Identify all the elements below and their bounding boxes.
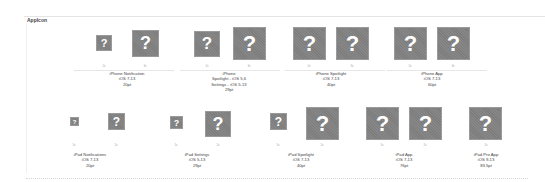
group-label-iphone-spotlight: iPhone Spotlight iOS 7-13 40pt — [296, 71, 366, 87]
icon-slot-iphone-app-2x[interactable]: ? — [394, 27, 427, 60]
scale-label: 1x — [268, 143, 288, 147]
scale-label: 2x — [312, 143, 332, 147]
section-title: AppIcon — [27, 17, 47, 23]
group-label-ipad-pro-app: iPad Pro App iOS 9-13 83.5pt — [451, 152, 521, 168]
scale-label: 2x — [197, 64, 217, 68]
icon-slot-ipad-settings-2x[interactable]: ? — [205, 111, 231, 137]
icon-slot-iphone-notification-2x[interactable]: ? — [96, 35, 112, 51]
section-bottom-divider — [26, 178, 528, 180]
section-border — [26, 23, 27, 173]
group-size: 29pt — [162, 163, 232, 168]
scale-label: 2x — [94, 64, 114, 68]
scale-label: 2x — [106, 143, 126, 147]
icon-slot-iphone-spotlight-2x[interactable]: ? — [293, 27, 326, 60]
icon-slot-ipad-spotlight-1x[interactable]: ? — [270, 113, 287, 130]
icon-slot-iphone-app-3x[interactable]: ? — [437, 27, 470, 60]
group-label-ipad-notification: iPad Notifications iOS 7-13 20pt — [55, 152, 125, 168]
group-label-iphone-app: iPhone App iOS 7-13 60pt — [397, 71, 467, 87]
icon-slot-ipad-spotlight-2x[interactable]: ? — [306, 107, 339, 140]
scale-label: 2x — [208, 143, 228, 147]
group-label-iphone-settings: iPhone Spotlight - iOS 5,6 Settings - iO… — [194, 71, 264, 93]
scale-label: 1x — [166, 143, 186, 147]
icon-slot-ipad-settings-1x[interactable]: ? — [170, 116, 183, 129]
group-size: 40pt — [266, 163, 336, 168]
scale-label: 1x — [372, 143, 392, 147]
scale-label: 1x — [64, 143, 84, 147]
section-header-divider — [24, 16, 545, 17]
scale-label: 2x — [476, 143, 496, 147]
group-size: 20pt — [92, 82, 162, 87]
scale-label: 2x — [299, 64, 319, 68]
scale-label: 3x — [239, 64, 259, 68]
icon-slot-ipad-pro-app-2x[interactable]: ? — [469, 107, 502, 140]
group-label-ipad-settings: iPad Settings iOS 5-13 29pt — [162, 152, 232, 168]
scale-label: 3x — [443, 64, 463, 68]
group-label-ipad-app: iPad App iOS 7-13 76pt — [369, 152, 439, 168]
group-label-iphone-notification: iPhone Notification iOS 7-13 20pt — [92, 71, 162, 87]
group-size: 60pt — [397, 82, 467, 87]
icon-slot-iphone-spotlight-3x[interactable]: ? — [336, 27, 369, 60]
icon-slot-iphone-settings-3x[interactable]: ? — [233, 27, 266, 60]
icon-slot-ipad-notification-1x[interactable]: ? — [70, 117, 79, 126]
icon-slot-iphone-settings-2x[interactable]: ? — [194, 31, 220, 57]
group-size: 76pt — [369, 163, 439, 168]
group-size: 40pt — [296, 82, 366, 87]
group-label-ipad-spotlight: iPad Spotlight iOS 7-13 40pt — [266, 152, 336, 168]
icon-slot-ipad-app-1x[interactable]: ? — [366, 107, 399, 140]
icon-slot-ipad-app-2x[interactable]: ? — [409, 107, 442, 140]
group-size: 83.5pt — [451, 163, 521, 168]
scale-label: 2x — [400, 64, 420, 68]
scale-label: 3x — [342, 64, 362, 68]
group-size: 29pt — [194, 87, 264, 92]
scale-label: 2x — [415, 143, 435, 147]
group-size: 20pt — [55, 163, 125, 168]
icon-slot-ipad-notification-2x[interactable]: ? — [108, 113, 125, 130]
scale-label: 3x — [135, 64, 155, 68]
icon-slot-iphone-notification-3x[interactable]: ? — [132, 30, 159, 57]
